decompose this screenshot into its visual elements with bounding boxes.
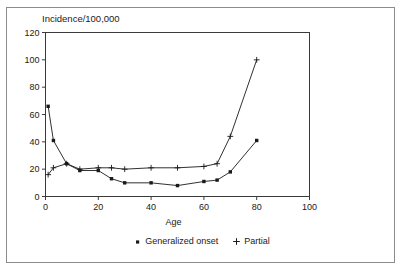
x-axis-tick-label: 100 <box>302 202 317 212</box>
data-point-marker <box>254 57 260 63</box>
series-line <box>48 60 257 175</box>
x-axis-label: Age <box>166 217 182 227</box>
data-point-marker <box>229 170 232 173</box>
chart-figure: Incidence/100,000 0204060801001200204060… <box>0 0 403 273</box>
data-point-marker <box>215 178 218 181</box>
data-point-marker <box>95 165 101 171</box>
data-point-marker <box>52 139 55 142</box>
data-point-marker <box>176 184 179 187</box>
y-axis-tick-label: 20 <box>29 164 39 174</box>
data-point-marker <box>149 181 152 184</box>
data-point-marker <box>123 181 126 184</box>
y-axis-tick-label: 60 <box>29 110 39 120</box>
plus-marker-icon <box>232 237 241 246</box>
y-axis-tick-label: 40 <box>29 137 39 147</box>
legend-label-partial: Partial <box>244 236 270 246</box>
data-point-marker <box>175 165 181 171</box>
x-axis-tick-label: 60 <box>199 202 209 212</box>
data-point-marker <box>46 105 49 108</box>
filled-square-marker-icon <box>133 237 142 246</box>
x-axis-tick-label: 0 <box>43 202 48 212</box>
data-point-marker <box>148 165 154 171</box>
legend-item-partial: Partial <box>232 236 270 246</box>
x-axis-tick-label: 40 <box>146 202 156 212</box>
plot-area: 020406080100120020406080100 <box>0 0 403 273</box>
legend-label-generalized-onset: Generalized onset <box>145 236 218 246</box>
y-axis-tick-label: 0 <box>34 192 39 202</box>
y-axis-tick-label: 80 <box>29 82 39 92</box>
data-point-marker <box>64 161 70 167</box>
data-point-marker <box>110 177 113 180</box>
y-axis-tick-label: 120 <box>24 28 39 38</box>
data-point-marker <box>227 133 233 139</box>
chart-legend: Generalized onset Partial <box>0 236 403 246</box>
data-point-marker <box>77 166 83 172</box>
data-point-marker <box>202 180 205 183</box>
data-point-marker <box>109 165 115 171</box>
x-axis-tick-label: 80 <box>252 202 262 212</box>
data-point-marker <box>214 161 220 167</box>
x-axis-tick-label: 20 <box>93 202 103 212</box>
data-point-marker <box>122 166 128 172</box>
data-point-marker <box>255 139 258 142</box>
legend-item-generalized-onset: Generalized onset <box>133 236 218 246</box>
data-point-marker <box>201 164 207 170</box>
y-axis-tick-label: 100 <box>24 55 39 65</box>
